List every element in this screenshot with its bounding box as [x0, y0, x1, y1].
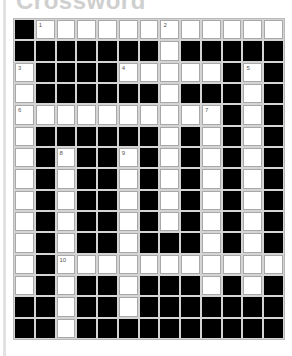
- answer-cell[interactable]: [181, 255, 200, 274]
- answer-cell[interactable]: [160, 169, 179, 188]
- answer-cell[interactable]: [98, 105, 117, 124]
- answer-cell[interactable]: [15, 276, 34, 295]
- answer-cell[interactable]: [160, 191, 179, 210]
- answer-cell[interactable]: [140, 105, 159, 124]
- answer-cell[interactable]: [202, 169, 221, 188]
- answer-cell[interactable]: [140, 255, 159, 274]
- answer-cell[interactable]: [15, 255, 34, 274]
- answer-cell[interactable]: [140, 63, 159, 82]
- answer-cell[interactable]: [57, 297, 76, 316]
- answer-cell[interactable]: [181, 105, 200, 124]
- answer-cell[interactable]: [119, 276, 138, 295]
- answer-cell[interactable]: [98, 20, 117, 39]
- answer-cell[interactable]: [223, 255, 242, 274]
- answer-cell[interactable]: 4: [119, 63, 138, 82]
- answer-cell[interactable]: [15, 191, 34, 210]
- answer-cell[interactable]: [160, 63, 179, 82]
- answer-cell[interactable]: [119, 20, 138, 39]
- answer-cell[interactable]: [160, 127, 179, 146]
- answer-cell[interactable]: [202, 212, 221, 231]
- answer-cell[interactable]: [243, 105, 262, 124]
- answer-cell[interactable]: [160, 105, 179, 124]
- answer-cell[interactable]: [36, 105, 55, 124]
- answer-cell[interactable]: [140, 20, 159, 39]
- answer-cell[interactable]: [243, 276, 262, 295]
- answer-cell[interactable]: [160, 255, 179, 274]
- page-title: Crossword: [16, 0, 146, 15]
- answer-cell[interactable]: [243, 148, 262, 167]
- block-cell: [223, 41, 242, 60]
- answer-cell[interactable]: [119, 212, 138, 231]
- answer-cell[interactable]: 10: [57, 255, 76, 274]
- answer-cell[interactable]: [181, 63, 200, 82]
- answer-cell[interactable]: [243, 127, 262, 146]
- answer-cell[interactable]: 3: [15, 63, 34, 82]
- answer-cell[interactable]: [119, 191, 138, 210]
- answer-cell[interactable]: [119, 297, 138, 316]
- answer-cell[interactable]: [57, 212, 76, 231]
- block-cell: [140, 84, 159, 103]
- answer-cell[interactable]: [119, 169, 138, 188]
- answer-cell[interactable]: [243, 233, 262, 252]
- answer-cell[interactable]: [202, 191, 221, 210]
- answer-cell[interactable]: [15, 148, 34, 167]
- block-cell: [264, 84, 283, 103]
- answer-cell[interactable]: [15, 233, 34, 252]
- answer-cell[interactable]: [57, 105, 76, 124]
- answer-cell[interactable]: [57, 191, 76, 210]
- answer-cell[interactable]: [243, 212, 262, 231]
- answer-cell[interactable]: 2: [160, 20, 179, 39]
- answer-cell[interactable]: [202, 148, 221, 167]
- block-cell: [77, 127, 96, 146]
- answer-cell[interactable]: [57, 169, 76, 188]
- answer-cell[interactable]: [202, 233, 221, 252]
- answer-cell[interactable]: [160, 41, 179, 60]
- answer-cell[interactable]: [243, 20, 262, 39]
- answer-cell[interactable]: [223, 20, 242, 39]
- answer-cell[interactable]: [243, 191, 262, 210]
- answer-cell[interactable]: [202, 20, 221, 39]
- answer-cell[interactable]: 1: [36, 20, 55, 39]
- answer-cell[interactable]: [181, 20, 200, 39]
- block-cell: [140, 212, 159, 231]
- answer-cell[interactable]: [202, 63, 221, 82]
- answer-cell[interactable]: [119, 105, 138, 124]
- answer-cell[interactable]: [57, 319, 76, 338]
- answer-cell[interactable]: [98, 255, 117, 274]
- answer-cell[interactable]: 9: [119, 148, 138, 167]
- block-cell: [98, 212, 117, 231]
- block-cell: [98, 127, 117, 146]
- answer-cell[interactable]: [77, 255, 96, 274]
- answer-cell[interactable]: 6: [15, 105, 34, 124]
- block-cell: [77, 84, 96, 103]
- block-cell: [264, 212, 283, 231]
- answer-cell[interactable]: 5: [243, 63, 262, 82]
- answer-cell[interactable]: [243, 169, 262, 188]
- answer-cell[interactable]: [160, 148, 179, 167]
- answer-cell[interactable]: [243, 84, 262, 103]
- block-cell: [15, 20, 34, 39]
- answer-cell[interactable]: [243, 255, 262, 274]
- answer-cell[interactable]: [15, 169, 34, 188]
- answer-cell[interactable]: [77, 20, 96, 39]
- answer-cell[interactable]: 7: [202, 105, 221, 124]
- answer-cell[interactable]: [77, 105, 96, 124]
- answer-cell[interactable]: [202, 127, 221, 146]
- answer-cell[interactable]: [202, 276, 221, 295]
- answer-cell[interactable]: [57, 276, 76, 295]
- answer-cell[interactable]: [160, 84, 179, 103]
- answer-cell[interactable]: 8: [57, 148, 76, 167]
- answer-cell[interactable]: [15, 212, 34, 231]
- answer-cell[interactable]: [119, 255, 138, 274]
- answer-cell[interactable]: [57, 233, 76, 252]
- answer-cell[interactable]: [15, 127, 34, 146]
- block-cell: [36, 191, 55, 210]
- answer-cell[interactable]: [160, 212, 179, 231]
- answer-cell[interactable]: [264, 255, 283, 274]
- crossword-grid: 12345678910: [13, 18, 285, 340]
- answer-cell[interactable]: [15, 84, 34, 103]
- answer-cell[interactable]: [119, 233, 138, 252]
- answer-cell[interactable]: [202, 255, 221, 274]
- answer-cell[interactable]: [264, 20, 283, 39]
- answer-cell[interactable]: [57, 20, 76, 39]
